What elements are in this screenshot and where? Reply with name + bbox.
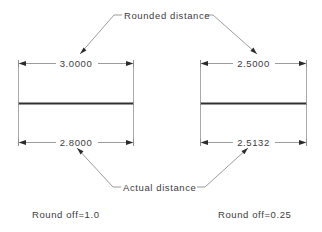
left-rounded-dimension: 3.0000 — [19, 58, 134, 69]
left-actual-dimension: 2.8000 — [19, 137, 134, 148]
rounded-distance-annotation: Rounded distance — [80, 10, 257, 55]
actual-distance-annotation: Actual distance — [77, 148, 248, 193]
right-actual-dimension: 2.5132 — [201, 137, 307, 148]
left-rounded-arrow-left-icon — [19, 61, 27, 66]
rounded-note-leader-right — [213, 15, 257, 54]
left-actual-arrow-left-icon — [19, 140, 27, 145]
left-actual-arrow-right-icon — [126, 140, 134, 145]
right-block: 2.5000 2.5132 — [201, 58, 307, 148]
left-rounded-arrow-right-icon — [126, 61, 134, 66]
right-rounded-dimension-value: 2.5000 — [237, 58, 270, 69]
left-actual-dimension-value: 2.8000 — [60, 137, 93, 148]
right-round-off-caption: Round off=0.25 — [218, 209, 291, 220]
actual-distance-label: Actual distance — [123, 182, 196, 193]
left-block: 3.0000 2.8000 — [19, 58, 134, 148]
actual-note-leader-right — [205, 148, 248, 187]
rounded-note-leader-left — [80, 15, 114, 54]
actual-note-leader-left — [77, 148, 113, 187]
right-rounded-dimension: 2.5000 — [201, 58, 307, 69]
right-rounded-arrow-right-icon — [299, 61, 307, 66]
technical-drawing: Rounded distance 3.0000 — [0, 0, 322, 232]
left-round-off-caption: Round off=1.0 — [32, 209, 100, 220]
drawing-canvas: Rounded distance 3.0000 — [0, 0, 322, 232]
rounded-distance-label: Rounded distance — [124, 10, 210, 21]
right-rounded-arrow-left-icon — [201, 61, 209, 66]
right-actual-arrow-left-icon — [201, 140, 209, 145]
right-actual-dimension-value: 2.5132 — [237, 137, 270, 148]
left-rounded-dimension-value: 3.0000 — [60, 58, 93, 69]
right-actual-arrow-right-icon — [299, 140, 307, 145]
